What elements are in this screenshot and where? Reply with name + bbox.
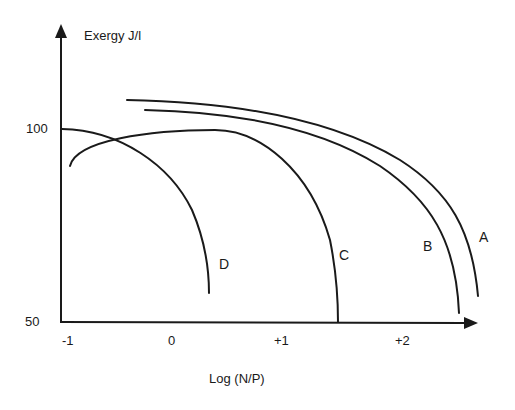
x-tick-0: 0 bbox=[168, 333, 175, 348]
y-axis-label: Exergy J/l bbox=[84, 28, 141, 43]
y-tick-50: 50 bbox=[25, 314, 39, 329]
curve-d bbox=[62, 129, 209, 293]
chart-canvas bbox=[0, 0, 515, 410]
x-tick-plus1: +1 bbox=[274, 333, 289, 348]
curve-label-b: B bbox=[423, 238, 432, 254]
curve-c bbox=[70, 130, 338, 322]
y-axis-arrow-icon bbox=[55, 24, 67, 38]
x-tick-minus1: -1 bbox=[62, 333, 74, 348]
curve-label-d: D bbox=[219, 256, 229, 272]
y-tick-100: 100 bbox=[26, 121, 48, 136]
curve-label-c: C bbox=[339, 247, 349, 263]
x-tick-plus2: +2 bbox=[395, 333, 410, 348]
curve-a bbox=[127, 100, 478, 296]
x-axis-label: Log (N/P) bbox=[209, 371, 265, 386]
curve-label-a: A bbox=[479, 229, 488, 245]
x-axis-arrow-icon bbox=[464, 317, 478, 329]
x-axis bbox=[60, 322, 465, 323]
